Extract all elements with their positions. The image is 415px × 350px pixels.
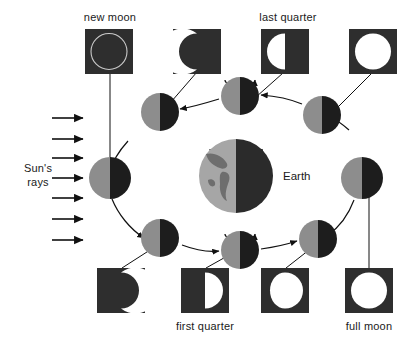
full-moon-top-lit-area xyxy=(355,34,391,70)
orbit-arc-left-to-lowerleft xyxy=(112,199,144,238)
moon-dark-half xyxy=(160,219,179,257)
orbit-moon-lower-left[interactable] xyxy=(141,219,179,257)
phase-box-waxing-crescent[interactable] xyxy=(97,268,158,314)
moon-phases-figure: Sun's rays xyxy=(0,0,415,350)
orbit-arc-bottom-to-lowerright xyxy=(261,241,297,249)
phase-box-full-moon[interactable] xyxy=(345,268,393,313)
orbit-moon-upper-right[interactable] xyxy=(303,96,341,134)
orbit-arc-lowerleft-to-bottom xyxy=(182,245,219,251)
full-moon-lit-area xyxy=(351,273,387,309)
moon-lit-half xyxy=(141,219,160,257)
orbit-moon-top[interactable] xyxy=(221,77,259,115)
suns-rays-label-line1: Sun's xyxy=(24,162,52,174)
moon-lit-half xyxy=(221,231,240,269)
earth-label: Earth xyxy=(283,170,311,182)
orbit-moon-lower-right[interactable] xyxy=(299,220,337,258)
orbit-moon-left[interactable] xyxy=(89,157,131,199)
leader-last-quarter xyxy=(256,73,283,97)
leader-waxing-crescent xyxy=(122,250,150,268)
moon-phases-diagram: Sun's rays xyxy=(0,0,415,350)
orbit-arc-top-to-upperleft xyxy=(180,99,219,109)
phase-box-full-moon-top[interactable] xyxy=(349,29,397,74)
earth-lit-half xyxy=(199,139,236,213)
last-quarter-label: last quarter xyxy=(259,11,317,23)
orbit-moon-bottom[interactable] xyxy=(221,231,259,269)
orbit-moon-right[interactable] xyxy=(341,157,383,199)
moon-lit-half xyxy=(221,77,240,115)
moon-dark-half xyxy=(110,157,131,199)
full-moon-label: full moon xyxy=(346,320,392,332)
leader-full-moon-top xyxy=(333,73,372,112)
moon-lit-half xyxy=(303,96,322,134)
moon-dark-half xyxy=(318,220,337,258)
moon-lit-half xyxy=(141,93,160,131)
moon-lit-half xyxy=(89,157,110,199)
moon-dark-half xyxy=(160,93,179,131)
first-quarter-label: first quarter xyxy=(176,320,234,332)
phase-box-new-moon[interactable] xyxy=(85,29,133,74)
moon-dark-half xyxy=(322,96,341,134)
phase-box-background xyxy=(85,29,133,74)
leader-waning-crescent xyxy=(171,72,197,102)
moon-lit-half xyxy=(341,157,362,199)
earth-group[interactable]: Earth xyxy=(199,139,311,213)
orbit-moon-upper-left[interactable] xyxy=(141,93,179,131)
earth-dark-half xyxy=(236,139,273,213)
phase-box-waxing-gibbous[interactable] xyxy=(261,268,309,313)
phase-box-first-quarter[interactable] xyxy=(181,268,229,313)
phase-box-waning-crescent[interactable] xyxy=(160,29,221,75)
phase-box-last-quarter[interactable] xyxy=(261,29,309,74)
moon-dark-half xyxy=(240,231,259,269)
moon-dark-half xyxy=(240,77,259,115)
suns-rays-group: Sun's rays xyxy=(24,118,83,240)
moon-lit-half xyxy=(299,220,318,258)
suns-rays-label-line2: rays xyxy=(27,176,49,188)
new-moon-label: new moon xyxy=(84,11,136,23)
moon-dark-half xyxy=(362,157,383,199)
orbit-arc-upperright-to-top xyxy=(261,95,302,104)
